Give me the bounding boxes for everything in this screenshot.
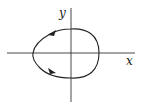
arrow-lower-icon	[48, 68, 56, 74]
y-axis-label: y	[59, 7, 66, 19]
closed-orbit-curve	[33, 29, 99, 78]
arrow-upper-icon	[48, 30, 56, 36]
phase-portrait-diagram	[0, 0, 141, 106]
x-axis-label: x	[126, 55, 133, 67]
